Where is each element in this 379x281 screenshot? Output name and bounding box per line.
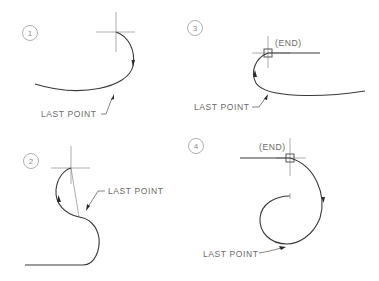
arc-curve xyxy=(260,158,322,244)
arc-curve xyxy=(35,32,134,90)
last-point-label: LAST POINT xyxy=(108,186,163,196)
panel-number: 1 xyxy=(28,29,33,38)
panel-number-badge: 1 xyxy=(23,26,38,41)
leader-line xyxy=(101,98,112,114)
crosshair-cursor-icon xyxy=(96,12,135,52)
leader-line xyxy=(88,191,105,207)
panel-number: 3 xyxy=(193,24,198,33)
panel-3: 3 (END) LAST POINT xyxy=(188,21,366,113)
end-label: (END) xyxy=(259,142,286,152)
arc-curve xyxy=(56,168,79,217)
last-point-label: LAST POINT xyxy=(194,102,249,112)
arc-curve xyxy=(253,53,365,96)
existing-curve xyxy=(25,217,99,265)
construction-line xyxy=(71,168,79,217)
leader-line xyxy=(259,248,281,253)
leader-arrow-icon xyxy=(264,94,268,100)
direction-arrow-icon xyxy=(57,195,61,202)
last-point-label: LAST POINT xyxy=(203,249,258,259)
panel-4: 4 (END) LAST POINT xyxy=(189,138,326,259)
panel-number-badge: 4 xyxy=(189,139,204,154)
panel-2: 2 LAST POINT xyxy=(24,146,164,265)
leader-line xyxy=(252,97,266,107)
last-point-label: LAST POINT xyxy=(41,109,96,119)
panel-number: 4 xyxy=(194,142,199,151)
crosshair-cursor-icon xyxy=(51,146,90,184)
panel-1: 1 LAST POINT xyxy=(23,12,136,119)
panel-number-badge: 2 xyxy=(24,154,39,169)
panel-number: 2 xyxy=(29,157,34,166)
arc-continuation-diagram: 1 LAST POINT 3 (END) xyxy=(0,0,379,281)
end-label: (END) xyxy=(275,38,302,48)
direction-arrow-icon xyxy=(132,60,136,67)
leader-arrow-icon xyxy=(279,246,286,250)
panel-number-badge: 3 xyxy=(188,21,203,36)
